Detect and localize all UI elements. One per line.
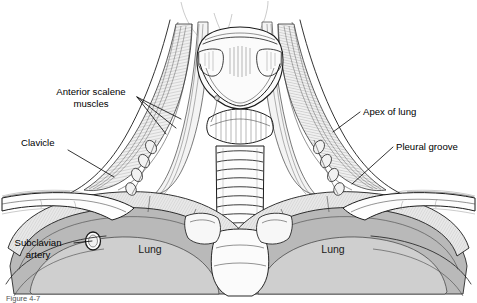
label-lung-right: Lung xyxy=(321,243,345,255)
label-text-line-1: Clavicle xyxy=(21,137,55,148)
sternoclavicular-joint-left xyxy=(185,213,221,244)
anatomy-figure: Anterior scalene muscles Clavicle Subcla… xyxy=(0,0,477,303)
label-clavicle: Clavicle xyxy=(21,137,55,148)
label-text-line-1: Anterior scalene xyxy=(56,86,125,97)
vessel-node xyxy=(215,96,220,101)
anatomy-illustration: Anterior scalene muscles Clavicle Subcla… xyxy=(0,0,477,303)
label-text-line-1: Subclavian xyxy=(15,237,62,248)
figure-caption: Figure 4-7 xyxy=(6,294,40,303)
label-text-line-1: Pleural groove xyxy=(396,141,458,152)
label-text-line-2: artery xyxy=(26,249,51,260)
subclavian-artery-ring xyxy=(86,232,101,250)
sternoclavicular-joint-right xyxy=(257,213,293,244)
label-apex-of-lung: Apex of lung xyxy=(363,106,416,117)
label-pleural-groove: Pleural groove xyxy=(396,141,458,152)
label-text-line-1: Apex of lung xyxy=(363,106,416,117)
label-lung-left: Lung xyxy=(138,243,162,255)
label-text-line-1: Lung xyxy=(321,243,345,255)
label-text-line-2: muscles xyxy=(73,98,108,109)
label-text-line-1: Lung xyxy=(138,243,162,255)
caption-text: Figure 4-7 xyxy=(6,294,40,303)
